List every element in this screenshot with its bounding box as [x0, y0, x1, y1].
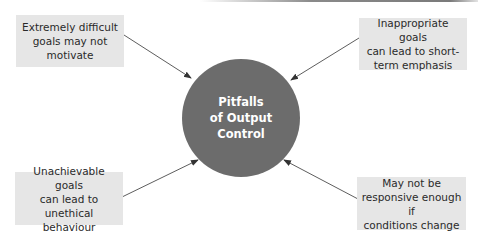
box-text-line: May not be [361, 176, 462, 190]
center-circle: Pitfalls of Output Control [182, 59, 300, 177]
box-text-line: responsive enough if [361, 190, 462, 218]
box-text-line: motivate [22, 48, 118, 62]
box-text-line: Unachievable goals [19, 164, 119, 192]
box-text-line: goals may not [22, 34, 118, 48]
pitfall-box-bottom-right: May not be responsive enough if conditio… [357, 177, 466, 230]
center-label-line: of Output [210, 110, 272, 126]
arrow-top-left [124, 35, 191, 78]
center-label-line: Pitfalls [210, 94, 272, 110]
center-label-line: Control [210, 126, 272, 142]
arrow-bottom-right [284, 160, 358, 199]
arrow-top-right [291, 38, 359, 80]
pitfall-box-top-left: Extremely difficult goals may not motiva… [16, 15, 124, 67]
arrow-bottom-left [122, 160, 198, 197]
pitfall-box-bottom-left: Unachievable goals can lead to unethical… [15, 172, 123, 225]
box-text-line: can lead to short- [363, 44, 463, 58]
pitfall-box-top-right: Inappropriate goals can lead to short- t… [359, 18, 467, 70]
box-text-line: conditions change [361, 218, 462, 232]
box-text-line: Extremely difficult [22, 20, 118, 34]
box-text-line: behaviour [19, 220, 119, 234]
box-text-line: Inappropriate goals [363, 16, 463, 44]
box-text-line: term emphasis [363, 58, 463, 72]
box-text-line: can lead to unethical [19, 192, 119, 220]
